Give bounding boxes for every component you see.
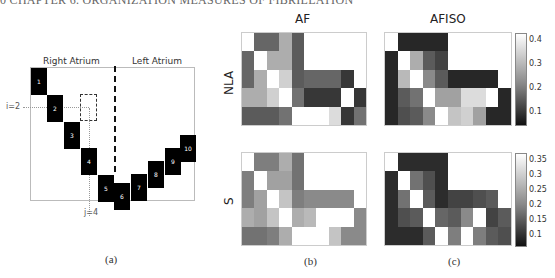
heatmap-cell [316, 153, 328, 171]
heatmap-cell [410, 208, 423, 226]
heatmap-cell [461, 190, 474, 208]
heatmap-cell [461, 227, 474, 245]
heatmap-cell [486, 153, 499, 171]
heatmap-cell [486, 171, 499, 189]
heatmap-cell [448, 171, 461, 189]
heatmap-cell [242, 33, 254, 51]
heatmap-cell [304, 33, 316, 51]
heatmap-cell [486, 88, 499, 106]
heatmap-cell [486, 51, 499, 69]
heatmap-cell [242, 153, 254, 171]
heatmap-cell [292, 153, 304, 171]
heatmap-cell [435, 107, 448, 125]
heatmap-cell [385, 51, 398, 69]
heatmap-cell [435, 70, 448, 88]
heatmap-cell [316, 51, 328, 69]
heatmap-cell [410, 33, 423, 51]
electrode-block: 2 [47, 95, 63, 122]
atrium-divider [114, 66, 116, 172]
heatmap-cell [316, 70, 328, 88]
heatmap-cell [398, 70, 411, 88]
heatmap-cell [292, 190, 304, 208]
heatmap-cell [473, 190, 486, 208]
heatmap-cell [410, 171, 423, 189]
row-label-s: S [222, 197, 236, 205]
heatmap-cell [385, 190, 398, 208]
heatmap-cell [292, 227, 304, 245]
heatmap-cell [304, 190, 316, 208]
colorbar-tick: 0.2 [529, 200, 542, 209]
heatmap-cell [498, 33, 511, 51]
colorbar-tick: 0.15 [529, 215, 547, 224]
heatmap-cell [242, 70, 254, 88]
heatmap-cell [267, 88, 279, 106]
heatmap-cell [329, 208, 341, 226]
heatmap-cell [423, 33, 436, 51]
heatmap-cell [316, 171, 328, 189]
heatmap-cell [398, 190, 411, 208]
heatmap-cell [292, 171, 304, 189]
j-label: j=4 [84, 208, 98, 217]
electrode-block: 4 [81, 148, 97, 175]
heatmap-cell [279, 70, 291, 88]
heatmap-cell [435, 153, 448, 171]
heatmap-cell [341, 153, 353, 171]
heatmap-cell [448, 227, 461, 245]
running-head: 0 CHAPTER 6. ORGANIZATION MEASURES OF FI… [0, 0, 353, 8]
colorbar-s [515, 153, 527, 247]
heatmap-cell [354, 227, 366, 245]
heatmap-cell [486, 208, 499, 226]
heatmap-cell [435, 171, 448, 189]
heatmap-cell [385, 171, 398, 189]
heatmap-cell [304, 153, 316, 171]
heatmap-cell [498, 88, 511, 106]
heatmap-cell [435, 33, 448, 51]
heatmap-cell [329, 227, 341, 245]
title-afiso: AFISO [430, 12, 466, 26]
heatmap-cell [354, 51, 366, 69]
heatmap-cell [329, 51, 341, 69]
heatmap-cell [279, 227, 291, 245]
caption-b: (b) [304, 255, 317, 267]
heatmap-cell [385, 227, 398, 245]
heatmap-cell [473, 227, 486, 245]
heatmap-cell [267, 107, 279, 125]
heatmap-cell [292, 33, 304, 51]
colorbar-tick: 0.2 [529, 83, 542, 92]
heatmap-cell [473, 33, 486, 51]
heatmap-cell [267, 208, 279, 226]
heatmap-cell [435, 190, 448, 208]
heatmap-cell [473, 208, 486, 226]
heatmap-cell [267, 171, 279, 189]
heatmap-cell [385, 153, 398, 171]
heatmap-cell [435, 51, 448, 69]
heatmap-cell [254, 153, 266, 171]
heatmap-cell [292, 107, 304, 125]
heatmap-cell [448, 33, 461, 51]
heatmap-cell [279, 107, 291, 125]
heatmap-cell [267, 33, 279, 51]
heatmap-cell [423, 88, 436, 106]
colorbar-tick: 0.4 [529, 35, 542, 44]
heatmap-cell [423, 51, 436, 69]
heatmap-cell [329, 107, 341, 125]
heatmap-cell [354, 171, 366, 189]
heatmap-cell [473, 171, 486, 189]
colorbar-tick: 0.3 [529, 59, 542, 68]
heatmap-cell [279, 190, 291, 208]
heatmap-cell [498, 153, 511, 171]
heatmap-cell [254, 171, 266, 189]
i-label: i=2 [6, 102, 20, 111]
heatmap-cell [341, 190, 353, 208]
heatmap-cell [292, 51, 304, 69]
heatmap-cell [398, 33, 411, 51]
heatmap-cell [316, 190, 328, 208]
heatmap-cell [254, 33, 266, 51]
heatmap-cell [486, 33, 499, 51]
heatmap-cell [279, 171, 291, 189]
heatmap-cell [242, 227, 254, 245]
heatmap-cell [341, 171, 353, 189]
caption-c: (c) [448, 255, 460, 267]
heatmap-cell [341, 227, 353, 245]
heatmap-cell [410, 88, 423, 106]
